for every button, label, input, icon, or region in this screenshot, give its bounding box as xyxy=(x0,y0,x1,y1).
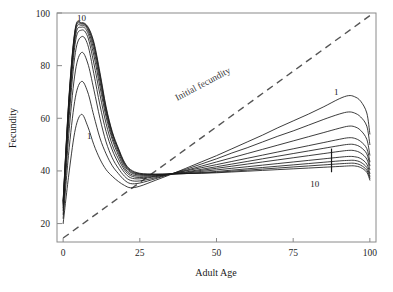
y-axis-ticks: 20406080100 xyxy=(36,9,62,230)
x-tick-label: 50 xyxy=(212,248,222,258)
curve-1-top-label: 1 xyxy=(87,131,92,141)
y-axis-title: Fecundity xyxy=(7,108,18,148)
initial-fecundity-label: Initial fecundity xyxy=(174,65,233,103)
x-tick-label: 0 xyxy=(61,248,66,258)
x-axis-ticks: 0255075100 xyxy=(61,238,377,258)
curve-10-top-label: 10 xyxy=(77,13,87,23)
fecundity-chart: 0255075100 20406080100 Initial fecundity… xyxy=(0,0,393,292)
y-tick-label: 80 xyxy=(41,61,51,71)
y-tick-label: 40 xyxy=(41,166,51,176)
y-tick-label: 60 xyxy=(41,114,51,124)
x-tick-label: 100 xyxy=(363,248,378,258)
figure-container: 0255075100 20406080100 Initial fecundity… xyxy=(0,0,393,292)
x-axis-title: Adult Age xyxy=(195,267,237,278)
curve-10-right-label: 10 xyxy=(310,179,320,189)
y-tick-label: 100 xyxy=(36,9,51,19)
chart-annotations: Initial fecundity101110 xyxy=(77,13,338,189)
fecundity-curves xyxy=(63,21,370,224)
y-tick-label: 20 xyxy=(41,219,51,229)
x-tick-label: 25 xyxy=(135,248,145,258)
curve-1-right-label: 1 xyxy=(334,87,339,97)
x-tick-label: 75 xyxy=(288,248,298,258)
